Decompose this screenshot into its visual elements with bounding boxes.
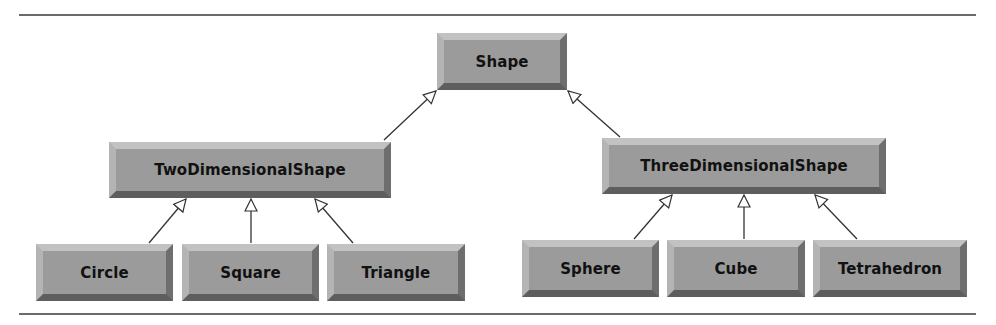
node-label-cube: Cube	[715, 260, 758, 278]
node-circle: Circle	[36, 244, 173, 301]
edge-circle-to-twodimensional	[149, 199, 186, 243]
node-sphere: Sphere	[522, 240, 659, 297]
node-tetrahedron: Tetrahedron	[813, 240, 967, 297]
node-label-three-dimensional-shape: ThreeDimensionalShape	[640, 157, 848, 175]
node-label-sphere: Sphere	[560, 260, 621, 278]
edge-threedimensional-to-shape	[568, 91, 620, 137]
edge-tetrahedron-to-threedimensional	[815, 195, 857, 239]
node-label-tetrahedron: Tetrahedron	[838, 260, 942, 278]
node-three-dimensional-shape: ThreeDimensionalShape	[602, 138, 886, 194]
node-shape: Shape	[437, 33, 567, 90]
node-cube: Cube	[667, 240, 805, 297]
node-square: Square	[182, 244, 319, 301]
node-label-circle: Circle	[80, 264, 128, 282]
node-two-dimensional-shape: TwoDimensionalShape	[109, 142, 391, 198]
edge-twodimensional-to-shape	[384, 91, 436, 140]
top-rule	[19, 14, 976, 16]
edge-sphere-to-threedimensional	[634, 195, 672, 239]
node-triangle: Triangle	[327, 244, 465, 301]
node-label-two-dimensional-shape: TwoDimensionalShape	[154, 161, 346, 179]
edge-triangle-to-twodimensional	[315, 199, 353, 243]
node-label-shape: Shape	[475, 53, 528, 71]
node-label-triangle: Triangle	[362, 264, 431, 282]
bottom-rule	[19, 313, 976, 315]
node-label-square: Square	[220, 264, 281, 282]
